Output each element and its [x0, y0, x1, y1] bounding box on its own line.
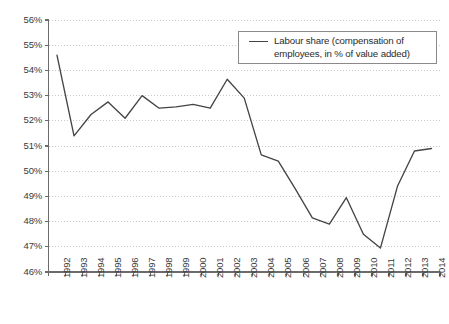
x-axis-tick-label: 2014	[436, 258, 447, 278]
chart-container: 46%47%48%49%50%51%52%53%54%55%56% 199219…	[0, 0, 449, 324]
data-series	[57, 55, 431, 248]
x-axis-tick-label: 2003	[248, 258, 259, 278]
legend-label: Labour share (compensation of employees,…	[274, 34, 434, 60]
x-axis-tick-label: 2009	[351, 258, 362, 278]
x-axis-tick-label: 2006	[300, 258, 311, 278]
y-axis-tick-label: 54%	[12, 64, 42, 75]
y-axis-tick-label: 48%	[12, 215, 42, 226]
x-axis-tick-label: 2010	[368, 258, 379, 278]
y-axis-tick-label: 47%	[12, 240, 42, 251]
x-axis-tick-label: 2000	[197, 258, 208, 278]
x-axis-tick-label: 1996	[129, 258, 140, 278]
x-axis-tick-label: 1997	[146, 258, 157, 278]
y-axis-tick-label: 55%	[12, 39, 42, 50]
x-axis-tick-label: 2002	[231, 258, 242, 278]
x-axis-tick-label: 2004	[265, 258, 276, 278]
chart-legend: Labour share (compensation of employees,…	[238, 31, 437, 64]
x-axis-tick-label: 2007	[317, 258, 328, 278]
y-axis-tick-label: 52%	[12, 114, 42, 125]
x-axis-tick-label: 2001	[214, 258, 225, 278]
x-axis-tick-label: 2013	[419, 258, 430, 278]
y-axis-tick-label: 49%	[12, 190, 42, 201]
x-axis-tick-label: 1992	[61, 258, 72, 278]
x-axis-tick-label: 2012	[402, 258, 413, 278]
x-axis-tick-label: 2005	[282, 258, 293, 278]
y-axis-tick-label: 50%	[12, 165, 42, 176]
y-axis-tick-label: 46%	[12, 266, 42, 277]
x-axis-tick-label: 2011	[385, 258, 396, 278]
x-axis-tick-label: 1994	[95, 258, 106, 278]
y-axis-tick-label: 53%	[12, 89, 42, 100]
y-axis-tick-label: 51%	[12, 140, 42, 151]
x-axis-tick-label: 1998	[163, 258, 174, 278]
x-axis-tick-label: 1993	[78, 258, 89, 278]
legend-line-swatch	[249, 41, 268, 42]
x-axis-tick-label: 1995	[112, 258, 123, 278]
x-axis-tick-label: 1999	[180, 258, 191, 278]
x-axis-tick-label: 2008	[334, 258, 345, 278]
y-axis-tick-label: 56%	[12, 14, 42, 25]
